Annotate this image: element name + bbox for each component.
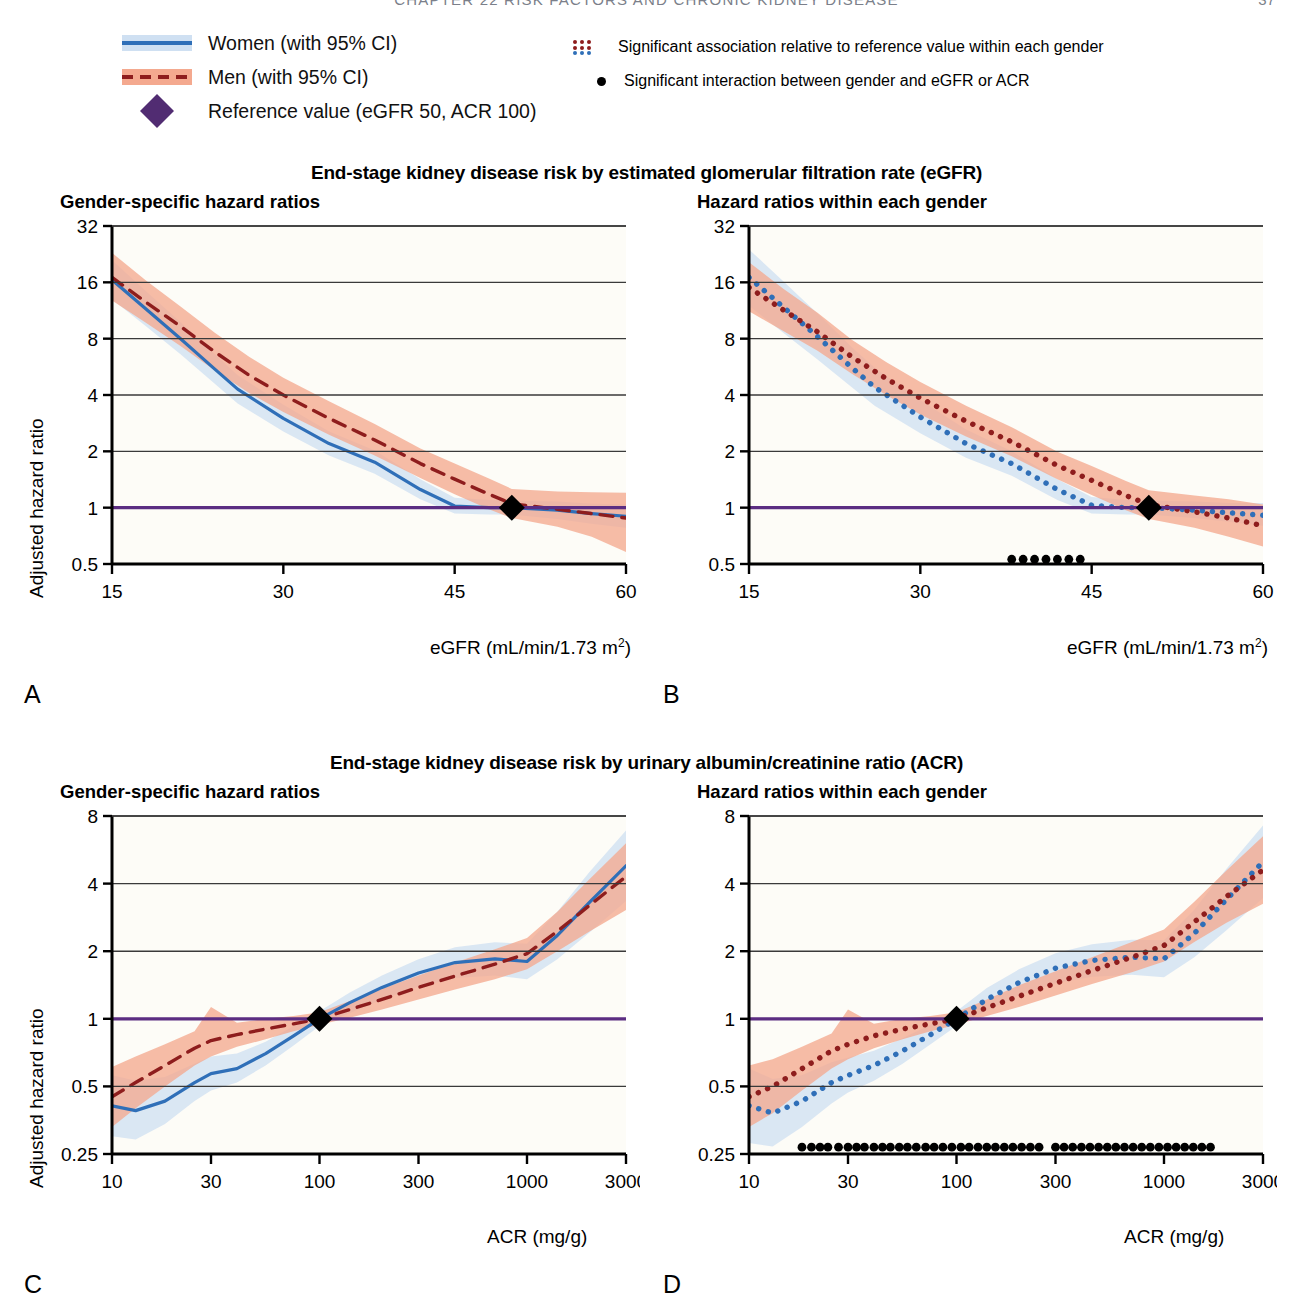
figure-egfr: End-stage kidney disease risk by estimat… — [0, 158, 1293, 718]
svg-text:4: 4 — [724, 874, 735, 895]
svg-text:1: 1 — [724, 498, 735, 519]
svg-text:8: 8 — [87, 806, 98, 827]
svg-text:45: 45 — [444, 581, 465, 602]
svg-text:0.5: 0.5 — [709, 554, 735, 575]
svg-text:4: 4 — [87, 385, 98, 406]
svg-text:0.5: 0.5 — [709, 1076, 735, 1097]
panel-letter-b: B — [663, 680, 680, 709]
panel-letter-c: C — [24, 1270, 42, 1299]
svg-text:60: 60 — [615, 581, 636, 602]
svg-text:30: 30 — [200, 1171, 221, 1192]
panel-c-subtitle: Gender-specific hazard ratios — [60, 781, 320, 803]
svg-text:10: 10 — [738, 1171, 759, 1192]
panel-a-xlabel: eGFR (mL/min/1.73 m2) — [430, 636, 631, 659]
svg-text:8: 8 — [87, 329, 98, 350]
svg-text:30: 30 — [837, 1171, 858, 1192]
svg-text:0.25: 0.25 — [61, 1144, 98, 1165]
svg-text:3000: 3000 — [605, 1171, 640, 1192]
dotted-grid-icon — [560, 38, 606, 56]
legend-item-significant-association: Significant association relative to refe… — [560, 30, 1280, 64]
figure-egfr-title: End-stage kidney disease risk by estimat… — [0, 162, 1293, 184]
page-number: 37 — [1258, 0, 1275, 8]
svg-text:60: 60 — [1252, 581, 1273, 602]
diamond-marker-icon — [120, 99, 194, 123]
svg-text:2: 2 — [724, 941, 735, 962]
svg-text:1: 1 — [87, 498, 98, 519]
filled-dot-icon — [560, 77, 612, 86]
panel-c-xlabel: ACR (mg/g) — [487, 1226, 587, 1248]
legend-label-significant-interaction: Significant interaction between gender a… — [624, 72, 1030, 90]
svg-text:10: 10 — [101, 1171, 122, 1192]
svg-text:100: 100 — [304, 1171, 336, 1192]
svg-text:1: 1 — [724, 1009, 735, 1030]
panel-b-xlabel: eGFR (mL/min/1.73 m2) — [1067, 636, 1268, 659]
svg-text:0.5: 0.5 — [72, 1076, 98, 1097]
panel-a-subtitle: Gender-specific hazard ratios — [60, 191, 320, 213]
men-line-swatch-icon — [120, 69, 194, 85]
svg-text:4: 4 — [724, 385, 735, 406]
svg-text:2: 2 — [724, 441, 735, 462]
panel-d-xlabel: ACR (mg/g) — [1124, 1226, 1224, 1248]
panel-letter-d: D — [663, 1270, 681, 1299]
svg-text:32: 32 — [77, 216, 98, 237]
svg-text:1000: 1000 — [1143, 1171, 1185, 1192]
svg-text:2: 2 — [87, 441, 98, 462]
svg-text:0.5: 0.5 — [72, 554, 98, 575]
panel-c-plot: 0.250.51248103010030010003000 — [60, 806, 640, 1206]
panel-letter-a: A — [24, 680, 41, 709]
svg-text:100: 100 — [941, 1171, 973, 1192]
running-head: CHAPTER 22 RISK FACTORS AND CHRONIC KIDN… — [0, 0, 1293, 16]
svg-text:8: 8 — [724, 806, 735, 827]
svg-text:3000: 3000 — [1242, 1171, 1277, 1192]
svg-text:16: 16 — [77, 272, 98, 293]
svg-text:16: 16 — [714, 272, 735, 293]
women-line-swatch-icon — [120, 35, 194, 51]
panel-b-subtitle: Hazard ratios within each gender — [697, 191, 987, 213]
svg-text:300: 300 — [403, 1171, 435, 1192]
panel-b-plot: 0.51248163215304560 — [697, 216, 1277, 616]
svg-text:30: 30 — [910, 581, 931, 602]
running-head-text: CHAPTER 22 RISK FACTORS AND CHRONIC KIDN… — [0, 0, 1293, 8]
svg-text:8: 8 — [724, 329, 735, 350]
panel-d-subtitle: Hazard ratios within each gender — [697, 781, 987, 803]
figure-acr: End-stage kidney disease risk by urinary… — [0, 748, 1293, 1304]
svg-text:0.25: 0.25 — [698, 1144, 735, 1165]
legend-label-men: Men (with 95% CI) — [208, 66, 368, 89]
svg-text:15: 15 — [738, 581, 759, 602]
panel-c-ylabel: Adjusted hazard ratio — [26, 1008, 48, 1188]
panel-b-xlabel-text: eGFR (mL/min/1.73 m2) — [1067, 637, 1268, 658]
legend-item-reference: Reference value (eGFR 50, ACR 100) — [120, 94, 640, 128]
panel-a-ylabel: Adjusted hazard ratio — [26, 418, 48, 598]
svg-text:300: 300 — [1040, 1171, 1072, 1192]
svg-text:30: 30 — [273, 581, 294, 602]
svg-text:45: 45 — [1081, 581, 1102, 602]
svg-text:32: 32 — [714, 216, 735, 237]
panel-a-plot: 0.51248163215304560 — [60, 216, 640, 616]
legend-item-significant-interaction: Significant interaction between gender a… — [560, 64, 1280, 98]
legend-column-right: Significant association relative to refe… — [560, 30, 1280, 98]
svg-text:15: 15 — [101, 581, 122, 602]
legend-label-reference: Reference value (eGFR 50, ACR 100) — [208, 100, 536, 123]
svg-text:4: 4 — [87, 874, 98, 895]
legend-label-significant-association: Significant association relative to refe… — [618, 38, 1104, 56]
figure-legend: Women (with 95% CI) Men (with 95% CI) Re… — [0, 26, 1293, 156]
panel-d-plot: 0.250.51248103010030010003000 — [697, 806, 1277, 1206]
panel-a-xlabel-text: eGFR (mL/min/1.73 m2) — [430, 637, 631, 658]
svg-text:1000: 1000 — [506, 1171, 548, 1192]
svg-text:1: 1 — [87, 1009, 98, 1030]
figure-acr-title: End-stage kidney disease risk by urinary… — [0, 752, 1293, 774]
svg-text:2: 2 — [87, 941, 98, 962]
legend-label-women: Women (with 95% CI) — [208, 32, 397, 55]
